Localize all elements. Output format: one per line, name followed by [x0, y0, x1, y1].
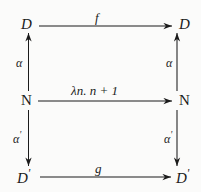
node-d-prime-bottom-right-base: D — [176, 170, 187, 186]
edge-label-f: f — [95, 11, 99, 24]
edge-label-alpha-left: α — [16, 57, 22, 69]
prime-mark: ' — [187, 167, 190, 180]
node-d-prime-bottom-left-base: D — [17, 170, 28, 186]
node-d-top-right: D — [179, 17, 190, 32]
edge-label-alpha-right: α — [166, 57, 172, 69]
node-d-prime-bottom-right: D' — [176, 168, 189, 186]
edge-label-alpha-prime-right: α' — [164, 131, 172, 145]
prime-mark: ' — [19, 130, 21, 140]
node-d-prime-bottom-left: D' — [17, 168, 30, 186]
node-n-middle-left: N — [21, 93, 32, 108]
prime-mark: ' — [170, 130, 172, 140]
edge-label-lambda-successor: λn. n + 1 — [71, 84, 118, 97]
prime-mark: ' — [28, 167, 31, 180]
edge-label-g: g — [95, 162, 102, 175]
node-d-top-left: D — [21, 17, 32, 32]
edge-label-alpha-prime-left: α' — [13, 131, 21, 145]
node-n-middle-right: N — [179, 93, 190, 108]
commutative-diagram: D D N N D' D' f λn. n + 1 g α α α' α' — [0, 0, 201, 192]
